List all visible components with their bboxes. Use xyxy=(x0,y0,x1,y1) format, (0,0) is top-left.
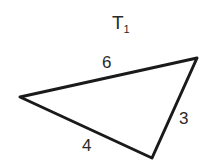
triangle-shape xyxy=(20,58,197,158)
side-label-bottom: 4 xyxy=(82,137,91,154)
side-label-right: 3 xyxy=(179,110,188,127)
side-label-top: 6 xyxy=(102,54,111,71)
triangle-figure xyxy=(0,0,210,165)
